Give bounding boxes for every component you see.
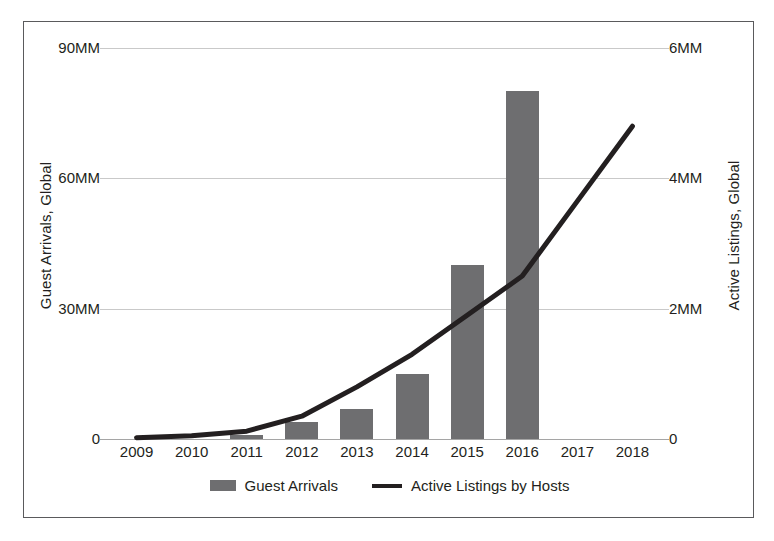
x-axis-tick-label: 2015 bbox=[440, 443, 495, 460]
x-axis-tick-label: 2017 bbox=[550, 443, 605, 460]
x-axis-tick-label: 2013 bbox=[329, 443, 384, 460]
y-axis-right-tick-mark bbox=[660, 48, 669, 49]
x-axis-tick-label: 2011 bbox=[219, 443, 274, 460]
line-series-active-listings bbox=[109, 48, 660, 439]
plot-area: 030MM60MM90MM 02MM4MM6MM bbox=[109, 48, 660, 439]
y-axis-right-tick-label: 2MM bbox=[669, 301, 702, 316]
y-axis-left-tick-label: 60MM bbox=[58, 170, 100, 185]
bar-swatch-icon bbox=[210, 480, 236, 491]
chart-figure: Guest Arrivals, Global Active Listings, … bbox=[23, 21, 754, 518]
x-axis-tick-labels: 2009201020112012201320142015201620172018 bbox=[109, 443, 660, 467]
legend-label-guest-arrivals: Guest Arrivals bbox=[245, 477, 338, 494]
y-axis-left-tick-label: 90MM bbox=[58, 40, 100, 55]
x-axis-tick-label: 2012 bbox=[274, 443, 329, 460]
x-axis-tick-label: 2016 bbox=[495, 443, 550, 460]
y-axis-left-tick-mark bbox=[100, 439, 109, 440]
x-axis-tick-label: 2014 bbox=[385, 443, 440, 460]
y-axis-right-tick-label: 0 bbox=[669, 431, 677, 446]
y-axis-right-tick-label: 4MM bbox=[669, 170, 702, 185]
y-axis-right-title: Active Listings, Global bbox=[725, 111, 742, 361]
x-axis-tick-label: 2010 bbox=[164, 443, 219, 460]
x-axis-tick-label: 2018 bbox=[605, 443, 660, 460]
y-axis-right-tick-label: 6MM bbox=[669, 40, 702, 55]
line-path bbox=[137, 126, 633, 438]
y-axis-left-tick-label: 0 bbox=[92, 431, 100, 446]
y-axis-left-tick-mark bbox=[100, 309, 109, 310]
y-axis-right-tick-mark bbox=[660, 309, 669, 310]
y-axis-left-tick-mark bbox=[100, 48, 109, 49]
y-axis-left-title: Guest Arrivals, Global bbox=[37, 111, 54, 361]
y-axis-right-tick-mark bbox=[660, 178, 669, 179]
y-axis-left-tick-label: 30MM bbox=[58, 301, 100, 316]
y-axis-right-tick-mark bbox=[660, 439, 669, 440]
chart-legend: Guest Arrivals Active Listings by Hosts bbox=[24, 477, 755, 494]
legend-item-active-listings: Active Listings by Hosts bbox=[372, 477, 569, 494]
y-axis-left-tick-mark bbox=[100, 178, 109, 179]
x-axis-tick-label: 2009 bbox=[109, 443, 164, 460]
line-swatch-icon bbox=[372, 484, 402, 488]
legend-label-active-listings: Active Listings by Hosts bbox=[411, 477, 569, 494]
gridline bbox=[109, 439, 660, 440]
legend-item-guest-arrivals: Guest Arrivals bbox=[210, 477, 338, 494]
